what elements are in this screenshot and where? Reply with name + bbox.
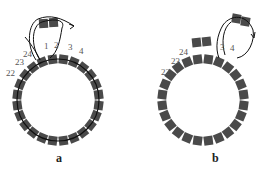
label-4: 4 [230, 44, 235, 53]
ring-diagram-a [0, 0, 131, 180]
added-beads [39, 18, 59, 29]
bead [159, 78, 171, 90]
bead [193, 136, 203, 146]
bead [181, 132, 193, 144]
caption-a: a [56, 151, 62, 166]
label-3: 3 [68, 43, 73, 52]
label-23: 23 [171, 57, 180, 66]
label-22: 22 [161, 68, 170, 77]
bead [235, 110, 247, 122]
label-24: 24 [179, 48, 188, 57]
label-22: 22 [6, 69, 15, 78]
bead [159, 110, 171, 122]
arrow-icon [69, 24, 74, 29]
bead [239, 100, 249, 110]
bead-ring [157, 54, 248, 145]
thread-circle [17, 59, 99, 141]
bead-ring [12, 54, 103, 145]
bead [203, 54, 213, 64]
bead [193, 54, 203, 64]
bead [157, 90, 167, 100]
label-3: 3 [220, 43, 225, 52]
bead [213, 132, 225, 144]
bead [239, 90, 249, 100]
caption-b: b [212, 151, 219, 166]
ring-diagram-b [131, 0, 263, 180]
panel-b: 3 4 24 23 22 b [131, 0, 262, 180]
bead [157, 100, 167, 110]
label-2: 2 [54, 41, 59, 50]
label-4: 4 [79, 47, 84, 56]
label-24: 24 [23, 50, 32, 59]
bead [181, 56, 193, 68]
label-1: 1 [44, 42, 49, 51]
label-23: 23 [15, 58, 24, 67]
bead [235, 78, 247, 90]
bead [203, 136, 213, 146]
panel-a: 1 2 3 4 24 23 22 a [0, 0, 131, 180]
